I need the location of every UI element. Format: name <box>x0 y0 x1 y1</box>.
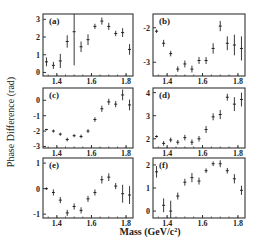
y-tick-label: -2 <box>33 127 40 136</box>
x-tick-label: 1.4 <box>52 77 62 86</box>
data-point <box>93 24 96 29</box>
panel-label: (b) <box>159 16 170 26</box>
x-tick-label: 1.4 <box>52 149 62 158</box>
data-point <box>80 135 83 139</box>
data-point <box>240 93 243 107</box>
y-tick-label: 0 <box>146 207 150 216</box>
data-point <box>233 97 236 111</box>
data-point <box>121 185 124 203</box>
y-tick-label: -1 <box>33 210 40 219</box>
data-point <box>176 140 179 145</box>
y-tick-label: 2 <box>146 135 150 144</box>
x-tick-label: 1.6 <box>86 219 96 228</box>
data-point <box>128 100 131 111</box>
x-tick-label: 1.6 <box>86 149 96 158</box>
data-point <box>73 14 76 65</box>
data-point <box>52 62 55 69</box>
x-tick-label: 1.6 <box>198 149 208 158</box>
data-point <box>205 126 208 133</box>
data-point <box>219 160 222 167</box>
data-point <box>198 136 201 142</box>
y-tick-label: 1 <box>36 51 40 60</box>
data-point <box>114 183 117 189</box>
x-tick-label: 1.4 <box>162 149 172 158</box>
data-point <box>240 186 243 195</box>
x-tick-label: 1.4 <box>162 77 172 86</box>
data-point <box>212 43 215 53</box>
data-point <box>93 189 96 195</box>
y-tick-label: -1 <box>33 112 40 121</box>
data-point <box>205 57 208 64</box>
data-point <box>169 138 172 143</box>
data-point <box>219 110 222 119</box>
data-point <box>121 90 124 101</box>
data-point <box>169 201 172 218</box>
x-tick-label: 1.6 <box>198 219 208 228</box>
y-tick-label: 0 <box>36 68 40 77</box>
y-tick-label: -3 <box>33 142 40 151</box>
y-tick-label: -3 <box>143 58 150 67</box>
y-axis-title: Phase Difference (rad) <box>5 77 17 167</box>
y-tick-label: 2 <box>36 33 40 42</box>
data-point <box>128 186 131 204</box>
data-point <box>45 187 48 190</box>
data-point <box>198 57 201 64</box>
data-point <box>190 139 193 145</box>
data-point <box>240 36 243 60</box>
data-point <box>226 94 229 101</box>
data-point <box>59 197 62 203</box>
panel-label: (a) <box>49 16 60 26</box>
data-point <box>59 133 62 136</box>
y-tick-label: 0 <box>36 185 40 194</box>
data-point <box>190 66 193 73</box>
x-tick-label: 1.4 <box>52 219 62 228</box>
data-point <box>114 31 117 36</box>
y-tick-label: 0 <box>36 96 40 105</box>
data-point <box>107 99 110 105</box>
y-tick-label: 3 <box>36 15 40 24</box>
data-point <box>190 173 193 182</box>
data-point <box>73 134 76 137</box>
data-point <box>87 129 90 133</box>
data-point <box>59 54 62 68</box>
data-point <box>45 129 48 131</box>
data-point <box>176 193 179 200</box>
data-point <box>100 106 103 112</box>
data-point <box>66 35 69 47</box>
panel-a: 1.41.61.80123(a) <box>36 14 133 86</box>
data-point <box>87 196 90 202</box>
data-point <box>212 113 215 120</box>
data-point <box>73 203 76 209</box>
data-point <box>114 101 117 107</box>
data-point <box>233 35 236 56</box>
data-point <box>198 178 201 185</box>
data-point <box>107 23 110 30</box>
y-tick-label: 4 <box>146 89 150 98</box>
panel-label: (c) <box>49 90 59 100</box>
data-point <box>155 135 158 137</box>
data-point <box>219 21 222 31</box>
data-point <box>205 168 208 173</box>
data-point <box>107 173 110 181</box>
data-point <box>233 174 236 183</box>
data-point <box>45 57 48 66</box>
x-tick-label: 1.6 <box>86 77 96 86</box>
data-point <box>226 168 229 174</box>
x-tick-label: 1.8 <box>121 77 131 86</box>
data-point <box>93 117 96 122</box>
data-point <box>183 61 186 68</box>
data-point <box>162 198 165 212</box>
data-point <box>80 207 83 213</box>
data-point <box>87 34 90 45</box>
data-point <box>176 66 179 72</box>
data-point <box>183 179 186 186</box>
data-point <box>52 130 55 133</box>
panel-label: (f) <box>159 160 168 170</box>
panel-b: 1.41.61.8-2-3(b) <box>143 14 245 86</box>
y-tick-label: 3 <box>146 112 150 121</box>
panel-e: 1.41.61.810-1(e) <box>33 158 133 228</box>
data-point <box>100 176 103 184</box>
x-tick-label: 1.8 <box>233 77 243 86</box>
phase-difference-figure: 1.41.61.80123(a)1.41.61.8-2-3(b)1.41.61.… <box>0 0 257 247</box>
data-point <box>100 18 103 25</box>
